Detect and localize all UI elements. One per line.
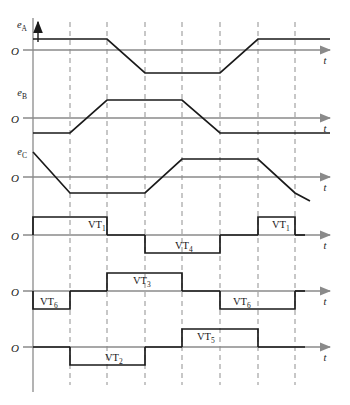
- zero-label-e_A: O: [11, 45, 19, 57]
- signal-name-e_A: eA: [17, 19, 28, 33]
- pulse-label-VT1-row1-2: VT1: [272, 219, 290, 233]
- axes: [23, 18, 330, 392]
- zero-label-e_B: O: [11, 113, 19, 125]
- signal-name-e_C: eC: [17, 146, 27, 160]
- pulse-label-VT1-row1-0: VT1: [88, 219, 106, 233]
- pulse-label-VT5-row3-1: VT5: [197, 331, 215, 345]
- t-axis-label-e_A: t: [324, 55, 328, 66]
- t-axis-label-vt_row_1: t: [324, 240, 328, 251]
- t-axis-label-vt_row_2: t: [324, 296, 328, 307]
- zero-label-vt_row_1: O: [11, 230, 19, 242]
- zero-label-vt_row_3: O: [11, 342, 19, 354]
- signal-name-e_B: eB: [17, 87, 27, 101]
- zero-label-vt_row_2: O: [11, 286, 19, 298]
- zero-label-e_C: O: [11, 172, 19, 184]
- t-axis-label-vt_row_3: t: [324, 352, 328, 363]
- t-axis-label-e_C: t: [324, 182, 328, 193]
- pulse-label-VT2-row3-0: VT2: [105, 352, 123, 366]
- diagram-canvas: OtOtOtOtOtOteAeBeCVT1VT4VT1VT6VT3VT6VT2V…: [0, 0, 350, 405]
- labels: OtOtOtOtOtOteAeBeCVT1VT4VT1VT6VT3VT6VT2V…: [11, 19, 327, 366]
- pulse-label-VT4-row1-1: VT4: [175, 240, 193, 254]
- pulse-label-VT3-row2-1: VT3: [133, 275, 151, 289]
- waveform-diagram: OtOtOtOtOtOteAeBeCVT1VT4VT1VT6VT3VT6VT2V…: [0, 0, 350, 405]
- pulse-label-VT6-row2-0: VT6: [40, 296, 58, 310]
- pulse-label-VT6-row2-2: VT6: [233, 296, 251, 310]
